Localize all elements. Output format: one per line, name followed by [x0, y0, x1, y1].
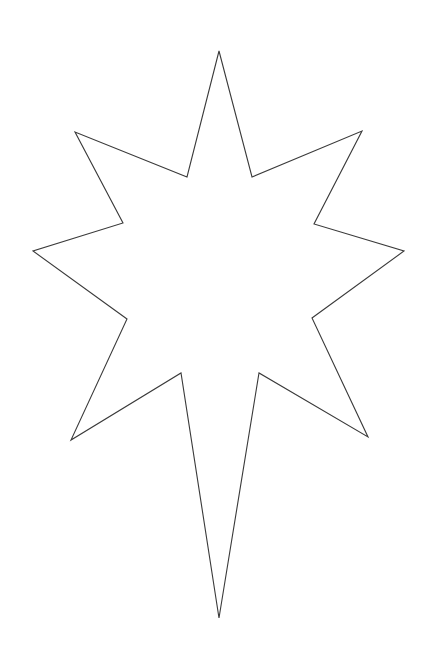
drawing-canvas	[0, 0, 437, 649]
star-drawing-svg	[0, 0, 437, 649]
